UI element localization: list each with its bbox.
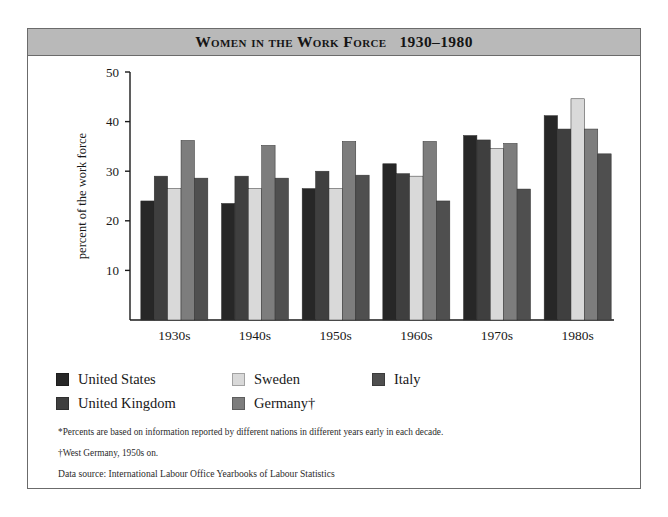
plot-area: 1020304050percent of the work force1930s… [28,56,640,356]
legend-label: Italy [394,371,421,388]
legend-swatch-icon [232,397,245,410]
legend-row: United Kingdom Germany† [56,391,476,415]
bar [342,141,355,320]
chart-title-banner: Women in the Work Force 1930–1980 [28,29,640,56]
legend-item-united-states: United States [56,371,232,388]
bar [329,189,342,320]
bar [598,154,611,320]
bar [571,99,584,320]
legend-row: United States Sweden Italy [56,367,476,391]
chart-legend: United States Sweden Italy United Kingdo… [56,367,476,415]
data-source-note: Data source: International Labour Office… [58,468,618,480]
x-axis-title: decades* [348,354,396,356]
bar [477,140,490,320]
x-tick-label: 1970s [481,328,513,343]
y-tick-label: 30 [106,164,119,179]
bar [558,129,571,320]
bar [194,178,207,320]
bar [410,176,423,320]
legend-item-sweden: Sweden [232,371,372,388]
bar [275,178,288,320]
y-tick-label: 50 [106,65,119,80]
bar [154,176,167,320]
bar [168,189,181,320]
chart-notes: *Percents are based on information repor… [58,427,618,480]
bar [436,201,449,320]
bar [235,176,248,320]
bar [396,174,409,320]
footnote-germany: †West Germany, 1950s on. [58,448,618,460]
bar [544,116,557,320]
bar [464,135,477,320]
x-tick-label: 1940s [239,328,271,343]
page-title: Women in the Work Force 1930–1980 [195,33,473,51]
footnote-percents: *Percents are based on information repor… [58,427,618,439]
bar [356,175,369,320]
bar [383,164,396,320]
legend-swatch-icon [56,373,69,386]
bar [262,145,275,320]
bar [302,189,315,320]
x-tick-label: 1930s [158,328,190,343]
bar [222,203,235,320]
legend-label: Germany† [254,395,315,412]
legend-swatch-icon [56,397,69,410]
bar [248,189,261,320]
bar [584,129,597,320]
x-tick-label: 1960s [400,328,432,343]
bar [141,201,154,320]
y-tick-label: 10 [106,263,119,278]
bar [423,141,436,320]
chart-bars [141,99,611,320]
legend-item-italy: Italy [372,371,472,388]
x-tick-label: 1980s [562,328,594,343]
legend-item-germany: Germany† [232,395,372,412]
y-tick-label: 20 [106,213,119,228]
y-tick-label: 40 [106,114,119,129]
bar [517,189,530,320]
bar [504,143,517,320]
legend-label: United States [78,371,156,388]
legend-swatch-icon [232,373,245,386]
y-axis-title: percent of the work force [75,132,89,259]
x-tick-label: 1950s [320,328,352,343]
legend-label: Sweden [254,371,300,388]
bar-chart-svg: 1020304050percent of the work force1930s… [28,56,642,356]
legend-swatch-icon [372,373,385,386]
chart-figure: Women in the Work Force 1930–1980 102030… [27,28,641,489]
bar [316,171,329,320]
bar [181,140,194,320]
legend-label: United Kingdom [78,395,176,412]
legend-item-united-kingdom: United Kingdom [56,395,232,412]
bar [490,148,503,320]
